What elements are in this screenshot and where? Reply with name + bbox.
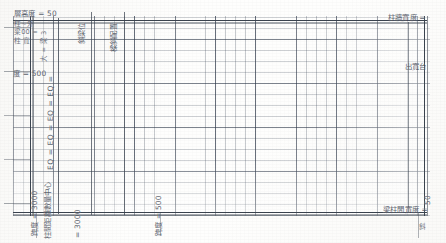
dimension-label-right-bottom-value: 50 (424, 195, 432, 205)
dimension-label-left-mid: 度 = 500 (13, 70, 46, 78)
label-right-mid: 出寬台 (405, 63, 427, 71)
mark-bottom-right: 斜 (419, 224, 426, 231)
tick-left-3 (4, 115, 30, 116)
frame-line-top-inner (13, 22, 427, 23)
column-line-2 (124, 12, 125, 215)
frame-line-top (13, 20, 427, 21)
tick-left-4 (4, 159, 30, 160)
label-right-bottom: 梁柱間寬度 = (383, 206, 428, 214)
dimension-label-span-3000: = 3000 (74, 209, 82, 238)
label-left-upper-3: 柱 寬 (14, 38, 31, 45)
frame-line-right-outer (424, 16, 425, 216)
frame-line-left-outer (30, 16, 31, 216)
column-line-1 (91, 12, 92, 215)
dimension-label-span-bottom-mid: 跨度 = 500 (155, 195, 163, 236)
frame-line-right-second (408, 22, 409, 212)
scan-fade-bottom (13, 156, 430, 216)
label-top-mid-2: 樑斜配置 (110, 23, 118, 52)
label-right-top: 柱牆寬度 = (388, 14, 426, 22)
frame-line-right-inner (427, 16, 428, 216)
tick-left-5 (4, 203, 30, 204)
dimension-label-span-left: 跨度 = 3000 (31, 191, 39, 237)
frame-line-left-inner (32, 16, 33, 216)
dimension-label-top-left: 層高度 = 50 (14, 10, 57, 18)
grid-sheet (13, 16, 430, 216)
label-top-mid-1: 斜梁位 (78, 22, 86, 44)
label-column-spacing-center: 柱間距離數量中心 (44, 181, 52, 239)
label-left-upper-2: 梁00 = (14, 29, 38, 36)
label-left-upper-4: 大 = 梁 3 (41, 31, 48, 62)
frame-line-left-second (58, 18, 59, 214)
equal-spacing-chain-label: EQ = EQ = EQ = EQ = (47, 75, 55, 170)
